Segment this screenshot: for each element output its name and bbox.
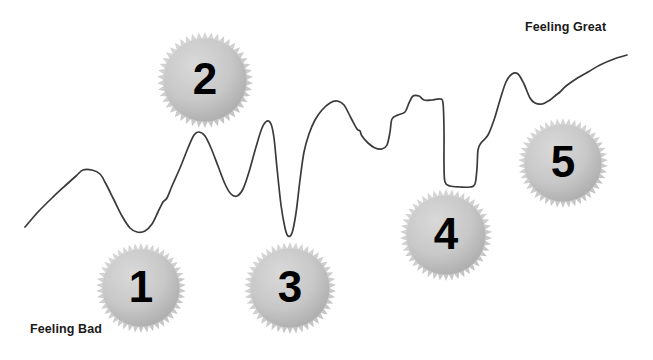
diagram-canvas: 12345 Feeling Bad Feeling Great xyxy=(0,0,653,360)
badge-number-label: 5 xyxy=(551,137,575,186)
milestone-badge-4[interactable]: 4 xyxy=(400,189,492,281)
milestone-badge-3[interactable]: 3 xyxy=(244,242,336,334)
axis-label-feeling-bad: Feeling Bad xyxy=(30,322,102,336)
mood-line-diagram: 12345 xyxy=(0,0,653,360)
milestone-badge-1[interactable]: 1 xyxy=(96,243,186,333)
axis-label-feeling-great: Feeling Great xyxy=(525,20,606,34)
badge-number-label: 2 xyxy=(193,54,217,103)
milestone-badge-5[interactable]: 5 xyxy=(518,118,608,208)
badge-number-label: 4 xyxy=(434,209,459,258)
badge-number-label: 3 xyxy=(278,262,302,311)
badge-number-label: 1 xyxy=(129,262,153,311)
milestone-badge-2[interactable]: 2 xyxy=(157,32,253,128)
